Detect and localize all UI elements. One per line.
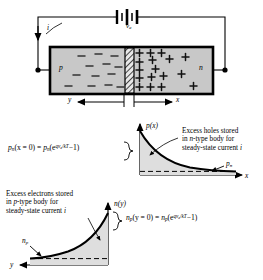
upper-plot-asymptote-label: pn (226, 160, 232, 169)
lower-asymptote-leader (30, 246, 41, 256)
electrons-boundary-equation: np(y = 0) = np(eqva/kT−1) (126, 214, 197, 223)
left-terminal-node (35, 67, 40, 72)
lower-annotation-line-1: Excess electrons stored (6, 190, 73, 198)
source-voltage-subscript: a (129, 25, 131, 30)
lower-annotation-line-3: steady-state current i (6, 207, 73, 215)
upper-plot-x-axis-label: x (245, 172, 248, 181)
holes-eq-lhs-arg: (x = 0) = (14, 143, 43, 152)
upper-annotation-line-3: steady-state current i (182, 144, 242, 152)
lower-equation-brace (113, 212, 122, 230)
upper-plot-annotation: Excess holes stored in n-type body for s… (182, 127, 242, 152)
battery-symbol (113, 9, 150, 25)
right-terminal-node (222, 67, 227, 72)
electrons-eq-rhs-close: −1) (187, 213, 198, 222)
electrons-eq-exponent-tail: /kT (180, 213, 187, 219)
upper-annotation-line-1: Excess holes stored (182, 127, 242, 135)
upper-equation-brace (124, 142, 133, 160)
holes-boundary-equation: pn(x = 0) = pn(eqva/kT−1) (8, 144, 79, 153)
current-arrow (38, 23, 62, 40)
electrons-eq-exponent: qva/kT (173, 213, 186, 219)
holes-eq-exponent-tail: /kT (62, 143, 69, 149)
p-region-label: p (59, 64, 63, 73)
depletion-region-hatch (125, 48, 134, 93)
lower-plot-annotation: Excess electrons stored in p-type body f… (6, 190, 73, 215)
upper-annotation-line-2: in n-type body for (182, 135, 242, 143)
diode-axis-y-label: y (68, 96, 71, 105)
current-label: i (47, 24, 49, 33)
lower-annotation-line-2: in p-type body for (6, 198, 73, 206)
electrons-eq-lhs-arg: (y = 0) = (132, 213, 161, 222)
holes-eq-rhs-close: −1) (69, 143, 80, 152)
lower-plot-y-axis-label: n(y) (114, 200, 126, 209)
source-voltage-label: va (126, 22, 131, 31)
diode-axis-x-label: x (176, 96, 179, 105)
semiconductor-diode-figure: p n va i y x pn(x = 0) = pn(eqva/kT−1) n… (0, 0, 263, 280)
diode-coordinate-axes (78, 95, 172, 107)
holes-eq-exponent: qva/kT (55, 143, 68, 149)
diode-body (50, 47, 213, 94)
n-region-label: n (199, 64, 203, 73)
upper-plot-y-axis-label: p(x) (146, 122, 158, 131)
lower-asymptote-sub: p (26, 240, 29, 245)
upper-asymptote-sub: n (230, 163, 233, 168)
lower-plot-x-axis-label: y (10, 261, 13, 270)
lower-plot-asymptote-label: np (22, 237, 28, 246)
